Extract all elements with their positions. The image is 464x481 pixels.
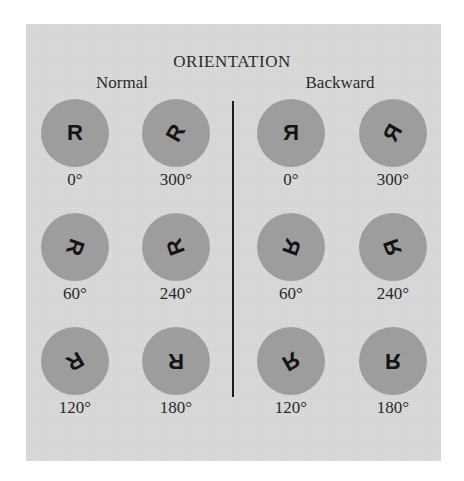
disc: R bbox=[142, 99, 210, 167]
angle-label: 0° bbox=[25, 170, 125, 190]
backward-item-120: R 120° bbox=[256, 327, 326, 427]
backward-item-60: R 60° bbox=[256, 213, 326, 313]
mirrored-letter-r-glyph: R bbox=[283, 122, 299, 144]
normal-item-60: R 60° bbox=[40, 213, 110, 313]
group-divider bbox=[232, 101, 234, 397]
angle-label: 0° bbox=[241, 170, 341, 190]
letter-r-glyph: R bbox=[62, 236, 88, 258]
angle-label: 180° bbox=[343, 398, 443, 418]
angle-label: 120° bbox=[25, 398, 125, 418]
disc: R bbox=[142, 327, 210, 395]
disc: R bbox=[359, 213, 427, 281]
mirrored-letter-r-glyph: R bbox=[278, 236, 304, 258]
mirrored-letter-r-glyph: R bbox=[279, 348, 304, 375]
angle-label: 300° bbox=[126, 170, 226, 190]
normal-item-120: R 120° bbox=[40, 327, 110, 427]
mirrored-letter-r-glyph: R bbox=[385, 350, 401, 372]
backward-item-180: R 180° bbox=[358, 327, 428, 427]
letter-r-glyph: R bbox=[67, 122, 83, 144]
figure-title: ORIENTATION bbox=[0, 52, 464, 72]
angle-label: 60° bbox=[25, 284, 125, 304]
normal-item-0: R 0° bbox=[40, 99, 110, 199]
letter-r-glyph: R bbox=[63, 348, 88, 375]
angle-label: 240° bbox=[126, 284, 226, 304]
backward-item-0: R 0° bbox=[256, 99, 326, 199]
angle-label: 300° bbox=[343, 170, 443, 190]
letter-r-glyph: R bbox=[168, 350, 184, 372]
angle-label: 240° bbox=[343, 284, 443, 304]
angle-label: 60° bbox=[241, 284, 341, 304]
disc: R bbox=[41, 213, 109, 281]
backward-item-240: R 240° bbox=[358, 213, 428, 313]
disc: R bbox=[257, 99, 325, 167]
disc: R bbox=[257, 327, 325, 395]
disc: R bbox=[142, 213, 210, 281]
backward-item-300: R 300° bbox=[358, 99, 428, 199]
disc: R bbox=[41, 327, 109, 395]
disc: R bbox=[257, 213, 325, 281]
normal-item-180: R 180° bbox=[141, 327, 211, 427]
disc: R bbox=[359, 99, 427, 167]
backward-heading: Backward bbox=[290, 73, 390, 93]
normal-heading: Normal bbox=[72, 73, 172, 93]
letter-r-glyph: R bbox=[162, 121, 189, 146]
letter-r-glyph: R bbox=[163, 236, 189, 258]
mirrored-letter-r-glyph: R bbox=[380, 236, 406, 258]
normal-item-240: R 240° bbox=[141, 213, 211, 313]
normal-item-300: R 300° bbox=[141, 99, 211, 199]
mirrored-letter-r-glyph: R bbox=[379, 121, 406, 146]
disc: R bbox=[359, 327, 427, 395]
angle-label: 180° bbox=[126, 398, 226, 418]
disc: R bbox=[41, 99, 109, 167]
angle-label: 120° bbox=[241, 398, 341, 418]
